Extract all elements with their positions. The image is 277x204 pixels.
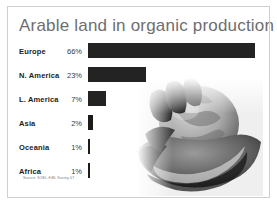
category-label: L. America [19, 95, 59, 104]
chart-row: N. America 23% [0, 66, 277, 90]
value-label: 1% [58, 143, 82, 152]
category-label: Asia [19, 119, 35, 128]
value-label: 23% [58, 71, 82, 80]
bar-asia [88, 115, 93, 130]
value-label: 66% [58, 47, 82, 56]
bar-chart: Europe 66% N. America 23% L. America 7% … [0, 42, 277, 187]
value-label: 1% [58, 167, 82, 176]
bar-n-america [88, 67, 146, 82]
bar-africa [88, 163, 90, 178]
value-label: 2% [58, 119, 82, 128]
chart-row: Europe 66% [0, 42, 277, 66]
bar-oceania [88, 139, 90, 154]
bar-europe [88, 43, 255, 58]
chart-row: Asia 2% [0, 114, 277, 138]
page-title: Arable land in organic production [19, 16, 274, 36]
slide-canvas: Arable land in organic production Europe… [0, 0, 277, 204]
category-label: N. America [19, 71, 59, 80]
category-label: Africa [19, 167, 41, 176]
chart-row: Africa 1% [0, 162, 277, 186]
category-label: Oceania [19, 143, 49, 152]
chart-row: L. America 7% [0, 90, 277, 114]
value-label: 7% [58, 95, 82, 104]
bar-l-america [88, 91, 106, 106]
category-label: Europe [19, 47, 46, 56]
source-note: Source: SOEL-FiBL Survey 07 [23, 176, 74, 180]
chart-row: Oceania 1% [0, 138, 277, 162]
